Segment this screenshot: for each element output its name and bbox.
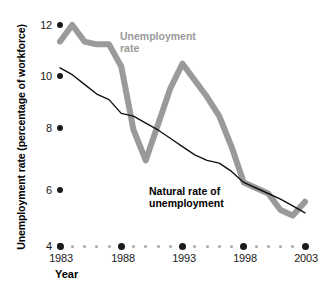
natural-rate-label: Natural rate of unemployment bbox=[149, 185, 224, 209]
unemployment-rate-chart: Unemployment rate (percentage of workfor… bbox=[0, 0, 331, 295]
unemployment-rate-label: Unemployment rate bbox=[120, 30, 196, 54]
